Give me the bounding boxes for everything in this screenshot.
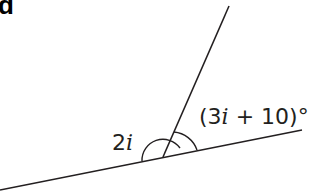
straight-line — [0, 130, 302, 190]
angle-arc-right — [174, 132, 197, 150]
part-label: d — [0, 0, 14, 20]
angle-label-right: (3i + 10)° — [199, 104, 309, 129]
ray-line — [163, 6, 229, 157]
angle-label-left: 2i — [112, 130, 133, 155]
angle-diagram: d 2i (3i + 10)° — [0, 0, 310, 193]
